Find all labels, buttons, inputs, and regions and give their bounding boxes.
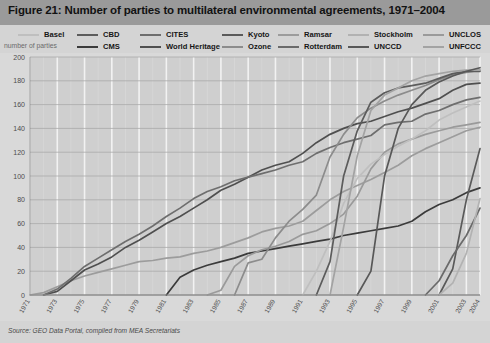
y-tick-label: 60 — [17, 220, 25, 227]
y-tick-label: 180 — [13, 77, 25, 84]
legend-swatch-icon — [423, 46, 444, 48]
legend-swatch-icon — [222, 34, 243, 36]
legend-swatch-icon — [77, 34, 98, 36]
y-tick-label: 80 — [17, 196, 25, 203]
legend-item-ozone[interactable]: Ozone — [222, 41, 271, 52]
legend-item-unfccc[interactable]: UNFCCC — [423, 41, 481, 52]
page-title: Figure 21: Number of parties to multilat… — [8, 4, 445, 16]
legend-swatch-icon — [140, 46, 161, 48]
legend-item-label: Kyoto — [248, 30, 270, 39]
legend-item-label: CITES — [166, 30, 188, 39]
legend-item-stockholm[interactable]: Stockholm — [348, 29, 413, 40]
legend-item-label: Rotterdam — [304, 42, 342, 51]
y-tick-label: 140 — [13, 125, 25, 132]
legend-swatch-icon — [18, 34, 39, 36]
legend-item-cms[interactable]: CMS — [77, 41, 120, 52]
legend-item-ramsar[interactable]: Ramsar — [278, 29, 332, 40]
legend-item-label: UNCCD — [374, 42, 401, 51]
legend-item-cbd[interactable]: CBD — [77, 29, 119, 40]
legend-swatch-icon — [222, 46, 243, 48]
legend-item-label: World Heritage — [166, 42, 220, 51]
legend-item-label: CBD — [103, 30, 119, 39]
legend-swatch-icon — [423, 34, 444, 36]
legend-item-cites[interactable]: CITES — [140, 29, 188, 40]
legend-item-basel[interactable]: Basel — [18, 29, 64, 40]
legend-item-rotterdam[interactable]: Rotterdam — [278, 41, 342, 52]
source-note: Source: GEO Data Portal, compiled from M… — [8, 327, 180, 334]
legend-item-label: UNCLOS — [449, 30, 481, 39]
y-tick-label: 200 — [13, 54, 25, 61]
y-tick-label: 20 — [17, 268, 25, 275]
legend-item-label: Stockholm — [374, 30, 413, 39]
figure-panel: Figure 21: Number of parties to multilat… — [0, 0, 490, 343]
y-tick-label: 160 — [13, 101, 25, 108]
chart-svg: 0204060801001201401601802001971197319751… — [0, 53, 490, 321]
legend-swatch-icon — [140, 34, 161, 36]
y-tick-label: 0 — [21, 292, 25, 299]
legend-item-label: Ramsar — [304, 30, 332, 39]
legend-item-unclos[interactable]: UNCLOS — [423, 29, 481, 40]
legend-item-label: CMS — [103, 42, 120, 51]
y-axis-label: number of parties — [4, 42, 57, 49]
legend-item-label: Ozone — [248, 42, 271, 51]
legend-swatch-icon — [278, 46, 299, 48]
legend-swatch-icon — [77, 46, 98, 48]
legend-swatch-icon — [278, 34, 299, 36]
source-bar: Source: GEO Data Portal, compiled from M… — [0, 321, 490, 343]
legend-swatch-icon — [348, 46, 369, 48]
legend-item-label: UNFCCC — [449, 42, 481, 51]
legend-swatch-icon — [348, 34, 369, 36]
chart-legend: BaselCMSCBDWorld HeritageCITESOzoneKyoto… — [0, 25, 490, 53]
plot-area: 0204060801001201401601802001971197319751… — [0, 53, 490, 321]
legend-item-unccd[interactable]: UNCCD — [348, 41, 401, 52]
legend-item-label: Basel — [44, 30, 64, 39]
legend-item-world-heritage[interactable]: World Heritage — [140, 41, 220, 52]
title-bar: Figure 21: Number of parties to multilat… — [0, 0, 490, 25]
legend-item-kyoto[interactable]: Kyoto — [222, 29, 270, 40]
y-tick-label: 40 — [17, 244, 25, 251]
y-tick-label: 100 — [13, 173, 25, 180]
y-tick-label: 120 — [13, 149, 25, 156]
